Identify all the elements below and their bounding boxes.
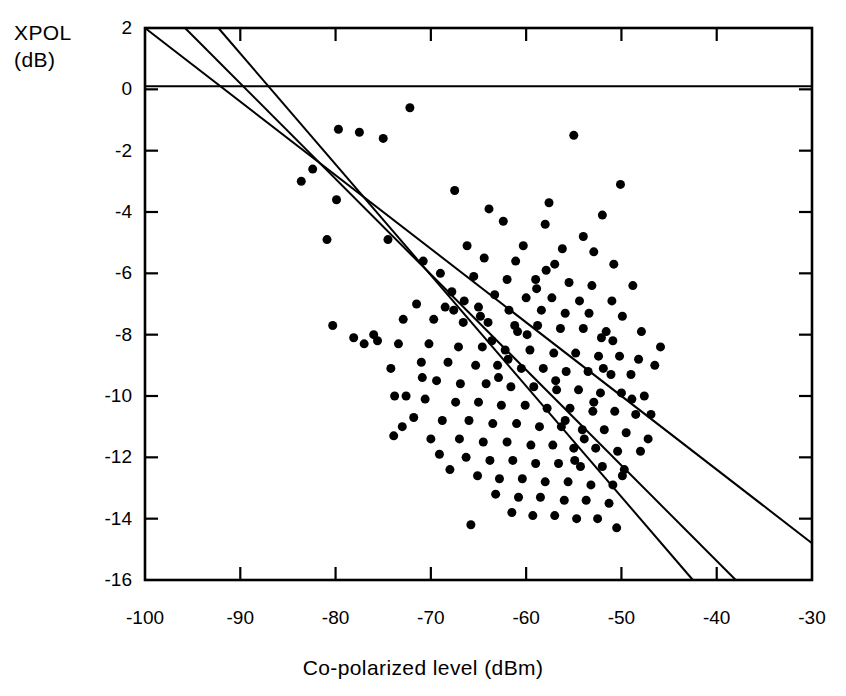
y-tick-label: -10	[60, 385, 132, 407]
x-tick-label: -70	[417, 607, 444, 629]
y-tick-label: 2	[60, 17, 132, 39]
x-tick-label: -60	[512, 607, 539, 629]
y-tick-label: -8	[60, 324, 132, 346]
y-tick-label: 0	[60, 78, 132, 100]
y-tick-label: -2	[60, 140, 132, 162]
y-tick-label: -4	[60, 201, 132, 223]
scatter-chart-figure: XPOL (dB) Co-polarized level (dBm) 20-2-…	[0, 0, 846, 696]
x-tick-label: -40	[703, 607, 730, 629]
y-tick-label: -12	[60, 446, 132, 468]
y-tick-label: -14	[60, 508, 132, 530]
x-tick-label: -50	[608, 607, 635, 629]
x-tick-label: -90	[227, 607, 254, 629]
x-tick-label: -30	[798, 607, 825, 629]
data-points	[297, 103, 665, 532]
x-axis-title: Co-polarized level (dBm)	[0, 655, 846, 682]
x-tick-label: -100	[126, 607, 164, 629]
x-tick-label: -80	[322, 607, 349, 629]
y-tick-label: -6	[60, 262, 132, 284]
y-axis-title-line-2: (dB)	[14, 47, 72, 74]
plot-canvas	[0, 0, 846, 696]
y-tick-label: -16	[60, 569, 132, 591]
